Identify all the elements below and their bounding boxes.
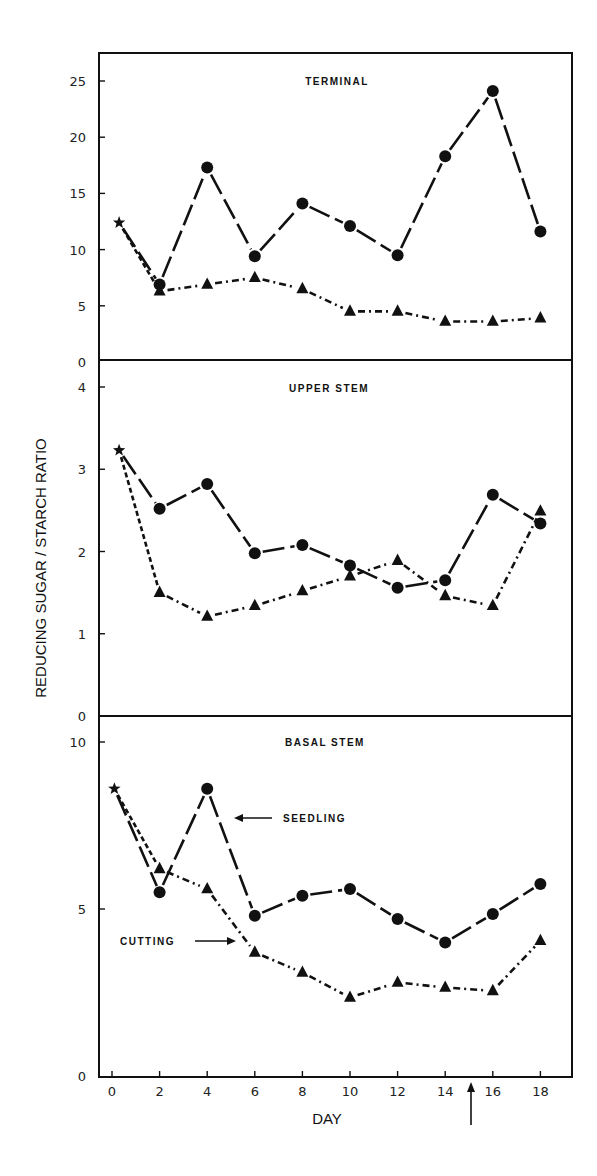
triangle-marker-icon [439, 314, 451, 325]
y-tick-label: 1 [78, 627, 86, 642]
series-line [310, 292, 343, 308]
chart-frame [99, 53, 572, 1077]
triangle-marker-icon [534, 934, 546, 945]
triangle-marker-icon [154, 862, 166, 873]
circle-marker-icon [201, 783, 213, 795]
circle-marker-icon [249, 910, 261, 922]
circle-marker-icon [296, 890, 308, 902]
event-arrowhead-icon [467, 1082, 475, 1092]
y-tick-label: 4 [78, 380, 86, 395]
series-line [495, 99, 537, 224]
panel-upper-stem: 01234 [78, 380, 547, 724]
circle-marker-icon [296, 198, 308, 210]
circle-marker-icon [487, 489, 499, 501]
series-line [167, 872, 200, 886]
panel-title-basal-stem: BASAL STEM [285, 737, 365, 748]
y-tick-label: 0 [78, 709, 86, 724]
y-tick-label: 10 [69, 735, 86, 750]
series-line [117, 795, 157, 886]
series-line [212, 895, 250, 946]
series-line [167, 488, 200, 505]
series-line [263, 280, 295, 288]
series-line [310, 890, 342, 894]
event-arrow [467, 1082, 475, 1125]
x-axis: 024681012141618 [108, 1071, 549, 1099]
circle-marker-icon [534, 878, 546, 890]
cutting-annotation: CUTTING [120, 936, 236, 947]
triangle-marker-icon [534, 504, 546, 515]
triangle-marker-icon [201, 277, 213, 288]
triangle-marker-icon [344, 569, 356, 580]
cutting-label: CUTTING [120, 936, 175, 947]
x-tick-label: 2 [155, 1084, 163, 1099]
triangle-marker-icon [439, 980, 451, 991]
series-line [215, 279, 247, 284]
triangle-marker-icon [487, 984, 499, 995]
series-line [500, 888, 534, 910]
y-tick-label: 5 [78, 299, 86, 314]
triangle-marker-icon [534, 311, 546, 322]
series-line [450, 98, 488, 150]
series-line [453, 598, 485, 605]
series-line [310, 579, 342, 589]
circle-marker-icon [344, 883, 356, 895]
series-line [496, 518, 536, 598]
series-line [310, 207, 343, 223]
triangle-marker-icon [296, 282, 308, 293]
series-line [163, 175, 205, 277]
circle-marker-icon [249, 250, 261, 262]
series-line [405, 313, 437, 320]
triangle-marker-icon [392, 553, 404, 564]
x-tick-label: 4 [203, 1084, 211, 1099]
series-line [452, 918, 486, 938]
x-tick-label: 14 [437, 1084, 454, 1099]
triangle-marker-icon [201, 882, 213, 893]
circle-marker-icon [344, 220, 356, 232]
triangle-marker-icon [344, 990, 356, 1001]
cutting-arrowhead-icon [227, 937, 236, 945]
x-tick-label: 0 [108, 1084, 116, 1099]
circle-marker-icon [392, 582, 404, 594]
circle-marker-icon [439, 574, 451, 586]
triangle-marker-icon [487, 314, 499, 325]
series-line [500, 499, 534, 520]
series-line [453, 988, 485, 990]
triangle-marker-icon [296, 584, 308, 595]
triangle-marker-icon [201, 609, 213, 620]
x-tick-label: 10 [342, 1084, 359, 1099]
star-marker-icon [108, 782, 120, 794]
circle-marker-icon [487, 85, 499, 97]
series-line [358, 985, 390, 995]
panel-terminal: 0510152025 [69, 74, 546, 370]
series-line [406, 983, 438, 986]
triangle-marker-icon [439, 589, 451, 600]
series-line [260, 210, 297, 251]
y-tick-label: 10 [69, 243, 86, 258]
series-line [168, 286, 200, 291]
series-line [401, 164, 442, 249]
series-line [498, 947, 535, 986]
y-tick-label: 15 [69, 186, 86, 201]
seedling-arrowhead-icon [234, 814, 243, 822]
x-axis-label: DAY [312, 1110, 342, 1127]
circle-marker-icon [154, 503, 166, 515]
panel-title-upper-stem: UPPER STEM [289, 383, 369, 394]
y-tick-label: 20 [69, 130, 86, 145]
series-line [211, 175, 251, 250]
panel-title-terminal: TERMINAL [305, 76, 369, 87]
triangle-marker-icon [154, 586, 166, 597]
panel-basal-stem: 0510 [69, 735, 546, 1084]
circle-marker-icon [392, 249, 404, 261]
y-tick-label: 3 [78, 462, 86, 477]
y-tick-label: 0 [78, 355, 86, 370]
x-tick-label: 18 [532, 1084, 549, 1099]
chart-border [99, 53, 572, 1077]
series-line [121, 457, 158, 586]
chart: 0510152025012340510 024681012141618 REDU… [0, 0, 597, 1176]
series-line [357, 893, 391, 915]
triangle-marker-icon [296, 965, 308, 976]
series-line [167, 596, 200, 613]
seedling-annotation: SEEDLING [234, 813, 346, 824]
series-line [262, 899, 295, 913]
y-tick-label: 5 [78, 902, 86, 917]
